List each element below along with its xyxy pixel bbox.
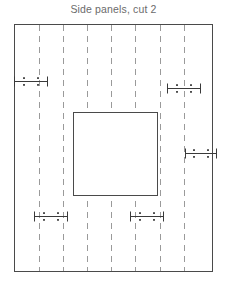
side-panel-cutting-diagram	[0, 0, 227, 291]
marker-dot	[139, 212, 141, 214]
marker-dot	[153, 219, 155, 221]
marker-dot	[57, 212, 59, 214]
marker-dot	[190, 91, 192, 93]
marker-dot	[37, 77, 39, 79]
diagram-canvas: Side panels, cut 2	[0, 0, 227, 291]
marker-dot	[153, 212, 155, 214]
marker-dot	[37, 84, 39, 86]
marker-dot	[190, 84, 192, 86]
marker-dot	[139, 219, 141, 221]
marker-dot	[57, 219, 59, 221]
marker-dot	[43, 219, 45, 221]
marker-dot	[193, 156, 195, 158]
marker-dot	[207, 149, 209, 151]
marker-left-upper	[14, 77, 48, 87]
marker-dot	[207, 156, 209, 158]
marker-dot	[193, 149, 195, 151]
marker-dot	[43, 212, 45, 214]
marker-dot	[176, 91, 178, 93]
marker-dot	[176, 84, 178, 86]
marker-dot	[23, 77, 25, 79]
marker-dot	[23, 84, 25, 86]
center-cutout	[74, 113, 158, 196]
